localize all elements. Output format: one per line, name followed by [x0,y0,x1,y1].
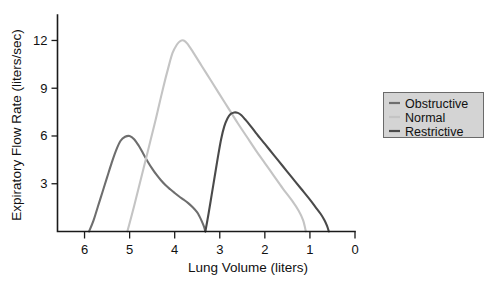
x-tick-label: 1 [306,242,313,257]
x-tick-label: 3 [216,242,223,257]
y-tick-label: 9 [40,81,47,96]
y-tick-label: 12 [33,33,47,48]
x-tick-label: 2 [261,242,268,257]
x-tick-label: 6 [81,242,88,257]
y-tick-label: 6 [40,128,47,143]
x-tick-label: 5 [126,242,133,257]
chart-background [0,0,491,289]
x-tick-label: 4 [171,242,178,257]
x-tick-label: 0 [351,242,358,257]
x-axis-title: Lung Volume (liters) [188,260,308,275]
legend-label-restrictive: Restrictive [405,125,463,139]
flow-volume-chart: 36912 6543210 Lung Volume (liters) Expir… [0,0,491,289]
legend-label-normal: Normal [405,111,445,125]
chart-legend: ObstructiveNormalRestrictive [384,93,484,139]
y-tick-label: 3 [40,176,47,191]
legend-label-obstructive: Obstructive [405,97,468,111]
y-axis-title: Expiratory Flow Rate (liters/sec) [9,29,24,220]
